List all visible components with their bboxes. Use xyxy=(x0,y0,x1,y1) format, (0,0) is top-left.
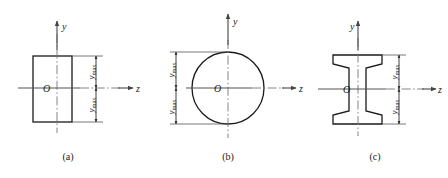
z-axis-label-b: z xyxy=(298,83,303,94)
y-axis-label-c: y xyxy=(349,21,355,32)
panel-c: y z O ymax ymax xyxy=(318,21,442,136)
caption-panel-c: (c) xyxy=(355,151,395,162)
y-axis-label-b: y xyxy=(232,16,238,27)
origin-label-b: O xyxy=(214,83,221,94)
panel-b: y z O ymax ymax xyxy=(166,14,303,138)
dimension-label-b-upper-group: ymax xyxy=(166,62,177,79)
panel-a: y z O ymax ymax xyxy=(18,21,140,133)
origin-label-c: O xyxy=(343,84,350,95)
figure-container: y z O ymax ymax xyxy=(0,0,448,178)
dimension-label-c-lower-group: ymax xyxy=(389,99,400,116)
dimension-label-a-upper-group: ymax xyxy=(86,64,97,81)
dimension-label-a-lower: ymax xyxy=(86,97,97,114)
z-axis-label-a: z xyxy=(135,83,140,94)
dimension-label-a-lower-group: ymax xyxy=(86,97,97,114)
z-axis-label-c: z xyxy=(437,84,442,95)
dimension-label-b-upper: ymax xyxy=(166,62,177,79)
caption-panel-a: (a) xyxy=(48,151,88,162)
y-axis-label-a: y xyxy=(61,21,67,32)
dimension-label-c-upper: ymax xyxy=(389,64,400,81)
dimension-label-c-upper-group: ymax xyxy=(389,64,400,81)
dimension-label-b-lower: ymax xyxy=(166,99,177,116)
origin-label-a: O xyxy=(43,83,50,94)
rectangle-section-outline xyxy=(33,56,72,122)
caption-panel-b: (b) xyxy=(208,151,248,162)
dimension-label-a-upper: ymax xyxy=(86,64,97,81)
dimension-label-c-lower: ymax xyxy=(389,99,400,116)
dimension-label-b-lower-group: ymax xyxy=(166,99,177,116)
